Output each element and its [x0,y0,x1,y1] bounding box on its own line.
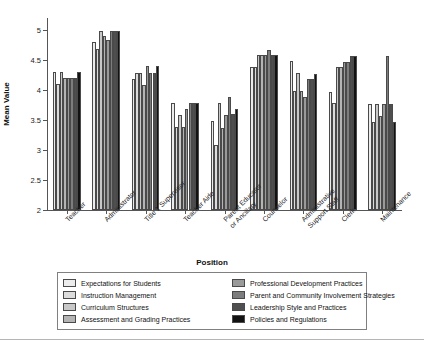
figure-bottom-rule [0,339,424,340]
y-tick-label: 4.5 [31,56,41,65]
y-tick-mark [43,210,47,211]
legend-label: Expectations for Students [81,280,161,287]
legend-swatch [232,303,245,311]
legend-label: Leadership Style and Practices [250,304,347,311]
y-axis-line [47,18,48,210]
legend-columns: Expectations for StudentsInstruction Man… [63,277,361,325]
legend-swatch [63,303,76,311]
bar [393,122,396,210]
y-tick-mark [43,60,47,61]
legend-column-right: Professional Development PracticesParent… [232,277,361,325]
bar-group [211,18,239,210]
legend-item[interactable]: Expectations for Students [63,277,232,289]
y-tick-mark [43,150,47,151]
bar-group [329,18,357,210]
y-tick-mark [43,120,47,121]
bar-group [250,18,278,210]
plot-area: 22.533.544.55 TeacherAdministratorTitle … [47,18,402,210]
bar-group [132,18,160,210]
bar [77,72,80,210]
legend-label: Curriculum Structures [81,304,149,311]
legend-swatch [63,279,76,287]
legend-label: Policies and Regulations [250,316,327,323]
legend: Expectations for StudentsInstruction Man… [57,272,367,330]
bar-group [92,18,120,210]
y-tick-mark [43,90,47,91]
y-tick-mark [43,30,47,31]
legend-item[interactable]: Parent and Community Involvement Strateg… [232,289,361,301]
legend-item[interactable]: Instruction Management [63,289,232,301]
legend-item[interactable]: Policies and Regulations [232,313,361,325]
y-tick-label: 3 [37,146,41,155]
bar [314,74,317,210]
bar-group [53,18,81,210]
legend-swatch [63,291,76,299]
legend-swatch [232,279,245,287]
y-tick-label: 3.5 [31,116,41,125]
y-tick-label: 2 [37,206,41,215]
legend-item[interactable]: Assessment and Grading Practices [63,313,232,325]
figure: Mean Value 22.533.544.55 TeacherAdminist… [0,0,424,350]
figure-left-edge [0,0,1,350]
y-tick-mark [43,180,47,181]
bar [274,55,277,210]
legend-label: Parent and Community Involvement Strateg… [250,292,395,299]
legend-swatch [63,315,76,323]
bar [117,31,120,210]
legend-swatch [232,291,245,299]
y-tick-label: 4 [37,86,41,95]
legend-column-left: Expectations for StudentsInstruction Man… [63,277,232,325]
y-tick-label: 5 [37,26,41,35]
legend-label: Professional Development Practices [250,280,362,287]
y-tick-label: 2.5 [31,176,41,185]
bar [195,103,198,210]
legend-label: Assessment and Grading Practices [81,316,190,323]
bar [235,109,238,210]
bar-group [290,18,318,210]
bar [353,56,356,210]
legend-item[interactable]: Curriculum Structures [63,301,232,313]
bar [156,66,159,210]
x-axis-label: Position [0,258,424,267]
bar-group [171,18,199,210]
bar-group [368,18,396,210]
legend-label: Instruction Management [81,292,156,299]
legend-swatch [232,315,245,323]
y-axis-label: Mean Value [2,82,11,126]
legend-item[interactable]: Leadership Style and Practices [232,301,361,313]
legend-item[interactable]: Professional Development Practices [232,277,361,289]
